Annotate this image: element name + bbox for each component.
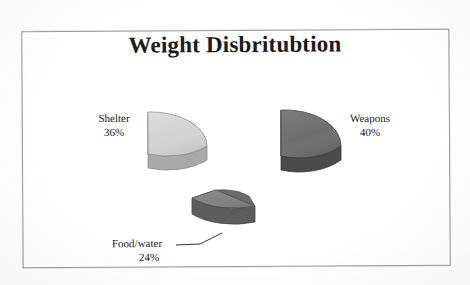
pie-label-shelter: Shelter 36% — [78, 112, 150, 140]
pie-label-weapons: Weapons 40% — [330, 112, 410, 140]
chart-title: Weight Disbritubtion — [0, 31, 470, 60]
pie-label-shelter-name: Shelter — [78, 112, 150, 126]
pie-slice-shelter-shading — [148, 112, 207, 156]
chart-page: Weight Disbritubtion — [0, 0, 470, 285]
pie-label-weapons-value: 40% — [330, 126, 410, 140]
pie-label-foodwater: Food/water 24% — [112, 237, 204, 265]
pie-label-foodwater-name: Food/water — [112, 237, 204, 251]
pie-label-shelter-value: 36% — [78, 126, 150, 140]
pie-label-weapons-name: Weapons — [330, 112, 410, 126]
pie-label-foodwater-value: 24% — [112, 251, 186, 265]
pie-slice-shelter[interactable] — [148, 112, 207, 170]
pie-slice-foodwater[interactable] — [192, 190, 255, 224]
